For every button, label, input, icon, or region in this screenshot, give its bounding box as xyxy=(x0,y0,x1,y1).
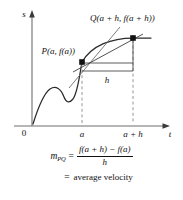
slope-symbol: mPQ xyxy=(50,151,65,161)
average-velocity-text: average velocity xyxy=(74,172,133,182)
origin-label: 0 xyxy=(22,128,27,138)
formula-block: mPQ = f(a + h) − f(a) h = average veloci… xyxy=(0,143,183,182)
equals-sign-2: = xyxy=(64,172,69,182)
y-axis-label: s xyxy=(22,9,26,19)
point-p-marker xyxy=(79,59,85,65)
tangent-line-at-p xyxy=(69,27,120,88)
x-axis-label: t xyxy=(169,129,172,139)
point-q-label: Q(a + h, f(a + h)) xyxy=(90,13,155,23)
fraction-denominator: h xyxy=(102,157,107,167)
point-q-marker xyxy=(130,35,136,41)
formula-result-row: = average velocity xyxy=(0,172,183,182)
y-axis-arrowhead xyxy=(29,10,35,18)
equals-sign-1: = xyxy=(69,151,74,161)
x-tick-a-plus-h: a + h xyxy=(123,129,143,139)
x-tick-a: a xyxy=(80,129,85,139)
slope-symbol-subscript: PQ xyxy=(57,155,65,162)
fraction-numerator: f(a + h) − f(a) xyxy=(77,145,133,155)
x-axis-arrowhead xyxy=(163,123,171,129)
formula-main-row: mPQ = f(a + h) − f(a) h xyxy=(0,143,183,169)
bracket-label-h: h xyxy=(105,75,110,85)
difference-quotient: f(a + h) − f(a) h xyxy=(77,145,133,167)
point-p-label: P(a, f(a)) xyxy=(41,46,76,56)
